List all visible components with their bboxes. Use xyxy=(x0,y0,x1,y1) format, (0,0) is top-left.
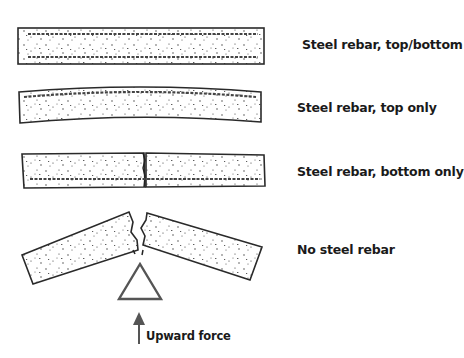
label-bottom-only: Steel rebar, bottom only xyxy=(297,164,464,179)
beam-bottom-only xyxy=(22,153,265,188)
label-no-rebar: No steel rebar xyxy=(297,242,395,257)
beam-top-only xyxy=(19,87,261,123)
beam-broken xyxy=(22,212,262,284)
label-top-bottom: Steel rebar, top/bottom xyxy=(302,37,463,52)
label-upward-force: Upward force xyxy=(146,329,231,343)
fulcrum-triangle xyxy=(119,264,161,299)
beam-top-bottom xyxy=(18,28,264,64)
label-top-only: Steel rebar, top only xyxy=(297,100,437,115)
upward-arrow-icon xyxy=(133,312,145,344)
